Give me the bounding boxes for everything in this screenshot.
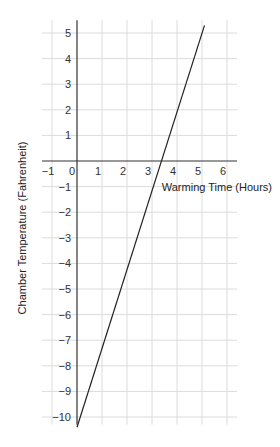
axes: [42, 20, 237, 424]
x-tick-label: 0: [69, 165, 75, 177]
x-tick-label: 4: [170, 165, 176, 177]
y-tick-label: −1: [58, 181, 71, 193]
y-tick-label: −8: [58, 360, 71, 372]
x-tick-label: 5: [195, 165, 201, 177]
x-tick-label: 2: [120, 165, 126, 177]
y-tick-label: 3: [65, 78, 71, 90]
series: [77, 25, 205, 427]
y-tick-label: −2: [58, 206, 71, 218]
grid: [42, 20, 237, 424]
tick-labels: −1012345654321−1−2−3−4−5−6−7−8−9−10: [42, 27, 226, 423]
y-tick-label: 2: [65, 104, 71, 116]
y-tick-label: −5: [58, 283, 71, 295]
y-tick-label: −6: [58, 309, 71, 321]
x-tick-label: −1: [42, 165, 55, 177]
y-tick-label: −7: [58, 334, 71, 346]
x-tick-label: 1: [95, 165, 101, 177]
y-tick-label: −9: [58, 385, 71, 397]
y-tick-label: 5: [65, 27, 71, 39]
x-tick-label: 6: [220, 165, 226, 177]
x-tick-label: 3: [145, 165, 151, 177]
series-line: [77, 25, 205, 427]
y-tick-label: 4: [65, 53, 71, 65]
y-axis-label: Chamber Temperature (Fahrenheit): [16, 142, 28, 315]
y-tick-label: −10: [52, 411, 71, 423]
y-tick-label: 1: [65, 129, 71, 141]
y-tick-label: −4: [58, 257, 71, 269]
chart: −1012345654321−1−2−3−4−5−6−7−8−9−10 Warm…: [0, 0, 280, 447]
y-tick-label: −3: [58, 232, 71, 244]
x-axis-label: Warming Time (Hours): [162, 181, 272, 193]
